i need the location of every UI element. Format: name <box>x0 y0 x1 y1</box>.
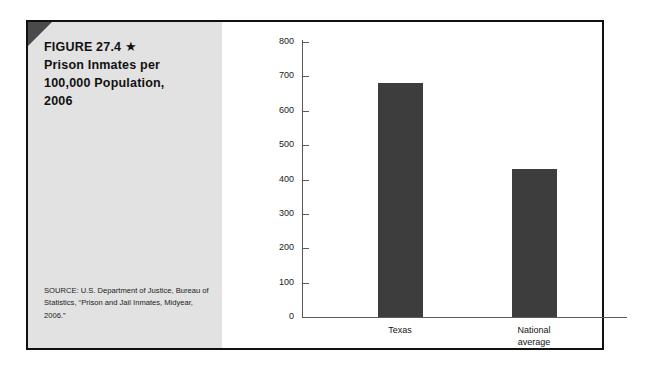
figure-title-line-3: 2006 <box>44 94 73 108</box>
bar-label-national-average: Nationalaverage <box>479 324 589 348</box>
y-tick-0 <box>302 317 309 318</box>
bar-label-texas: Texas <box>345 324 455 336</box>
source-note: SOURCE: U.S. Department of Justice, Bure… <box>44 285 212 323</box>
y-tick-label-300: 300 <box>234 208 294 218</box>
y-tick-label-500: 500 <box>234 139 294 149</box>
y-tick-300 <box>302 214 309 215</box>
plot-panel: 0100200300400500600700800 TexasNationala… <box>222 22 602 348</box>
plot-area: 0100200300400500600700800 TexasNationala… <box>222 22 602 348</box>
y-tick-label-100: 100 <box>234 277 294 287</box>
y-axis-line <box>302 40 303 317</box>
y-tick-500 <box>302 145 309 146</box>
y-tick-label-200: 200 <box>234 242 294 252</box>
bar-national-average <box>512 169 557 317</box>
caption-panel: FIGURE 27.4 ★ Prison Inmates per 100,000… <box>28 22 222 348</box>
y-tick-700 <box>302 76 309 77</box>
figure-title-line-1: Prison Inmates per <box>44 58 160 72</box>
figure-title: FIGURE 27.4 ★ Prison Inmates per 100,000… <box>44 38 209 110</box>
y-tick-600 <box>302 111 309 112</box>
y-tick-label-700: 700 <box>234 70 294 80</box>
figure-frame: FIGURE 27.4 ★ Prison Inmates per 100,000… <box>26 20 604 350</box>
y-tick-label-600: 600 <box>234 105 294 115</box>
y-tick-label-0: 0 <box>234 311 294 321</box>
y-tick-label-400: 400 <box>234 174 294 184</box>
bar-texas <box>378 83 423 317</box>
y-tick-200 <box>302 248 309 249</box>
y-tick-label-800: 800 <box>234 36 294 46</box>
y-tick-800 <box>302 42 309 43</box>
figure-title-line-2: 100,000 Population, <box>44 76 165 90</box>
y-tick-100 <box>302 283 309 284</box>
star-icon: ★ <box>125 39 137 54</box>
x-axis-line <box>302 317 627 318</box>
figure-number: FIGURE 27.4 <box>44 40 121 54</box>
y-tick-400 <box>302 180 309 181</box>
